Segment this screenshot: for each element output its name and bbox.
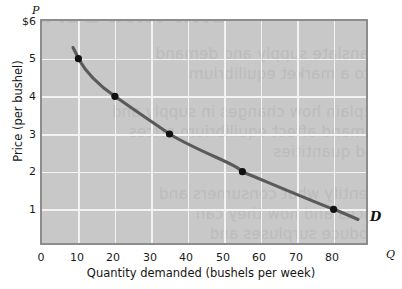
x-tick-label: 50 <box>212 251 234 264</box>
demand-curve-figure: P Q SHIFTING DEMAND 4. Translate supply … <box>0 0 402 289</box>
data-point-marker <box>239 168 246 175</box>
x-tick-label: 20 <box>102 251 124 264</box>
x-tick-label: 0 <box>30 251 52 264</box>
x-tick-label: 30 <box>139 251 161 264</box>
x-tick-label: 80 <box>321 251 343 264</box>
y-tick-label: 1 <box>0 203 36 216</box>
x-tick-label: 10 <box>66 251 88 264</box>
x-axis-title: Quantity demanded (bushels per week) <box>0 266 402 280</box>
x-tick-label: 70 <box>285 251 307 264</box>
demand-curve-line <box>73 48 358 220</box>
y-axis-title: Price (per bushel) <box>11 31 25 191</box>
data-point-marker <box>111 93 118 100</box>
demand-curve-label: D <box>370 209 381 224</box>
data-point-marker <box>166 130 173 137</box>
y-tick-label: $6 <box>0 15 36 28</box>
x-tick-label: 40 <box>175 251 197 264</box>
x-tick-label: 60 <box>248 251 270 264</box>
x-axis-symbol: Q <box>386 248 395 261</box>
plot-area: SHIFTING DEMAND 4. Translate supply and … <box>40 19 368 245</box>
data-point-marker <box>330 206 337 213</box>
demand-curve-svg <box>42 21 368 245</box>
data-point-marker <box>75 55 82 62</box>
